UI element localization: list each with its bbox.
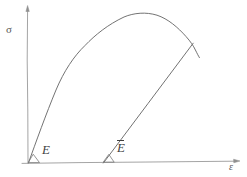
stress-strain-curve <box>28 13 199 163</box>
y-axis-group <box>26 6 29 164</box>
secant-modulus-label: E <box>117 140 125 154</box>
x-axis-arrowhead-icon <box>234 159 240 163</box>
y-axis-line <box>27 10 28 163</box>
stress-strain-figure: σ ε E E <box>0 0 247 177</box>
y-axis-arrowhead-icon <box>26 6 29 12</box>
x-axis-label-epsilon: ε <box>229 162 233 172</box>
secant-modulus-letter: E <box>117 140 125 155</box>
x-axis-line <box>22 161 234 163</box>
x-axis-group <box>22 159 240 163</box>
elastic-modulus-label: E <box>42 143 50 156</box>
overbar-icon <box>117 140 124 141</box>
secant-modulus-overbar-wrap: E <box>117 140 125 154</box>
y-axis-label-sigma: σ <box>6 24 12 35</box>
